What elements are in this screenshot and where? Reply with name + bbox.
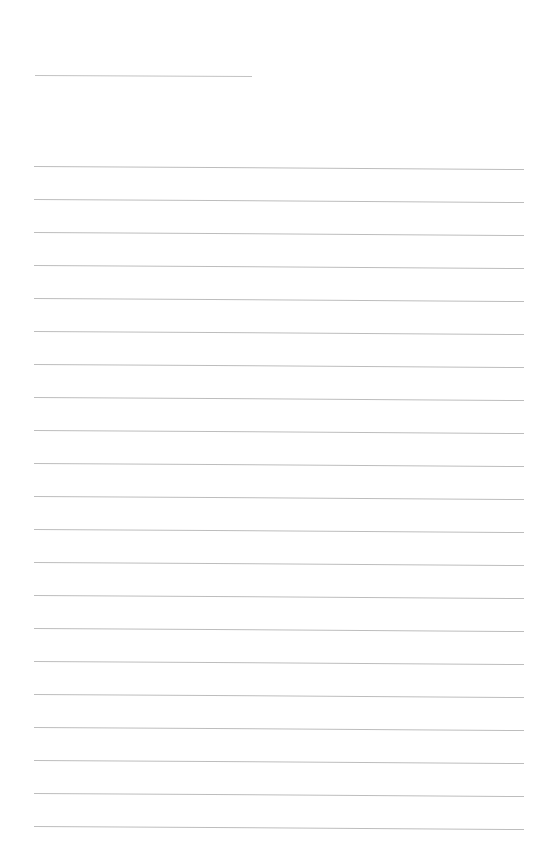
ruled-line bbox=[34, 595, 524, 599]
lined-paper-page bbox=[0, 0, 533, 863]
ruled-line bbox=[34, 562, 524, 566]
ruled-line bbox=[34, 199, 524, 203]
ruled-line bbox=[34, 298, 524, 302]
ruled-line bbox=[34, 364, 524, 368]
ruled-line bbox=[34, 463, 524, 467]
ruled-line bbox=[34, 430, 524, 434]
ruled-line bbox=[34, 727, 524, 731]
ruled-lines-container bbox=[0, 0, 533, 863]
ruled-line bbox=[34, 397, 524, 401]
ruled-line bbox=[34, 232, 524, 236]
ruled-line bbox=[34, 529, 524, 533]
ruled-line bbox=[34, 694, 524, 698]
ruled-line bbox=[34, 826, 524, 830]
ruled-line bbox=[34, 628, 524, 632]
ruled-line bbox=[34, 265, 524, 269]
ruled-line bbox=[34, 661, 524, 665]
ruled-line bbox=[34, 331, 524, 335]
ruled-line bbox=[34, 793, 524, 797]
ruled-line bbox=[34, 496, 524, 500]
ruled-line bbox=[34, 166, 524, 170]
ruled-line bbox=[34, 760, 524, 764]
